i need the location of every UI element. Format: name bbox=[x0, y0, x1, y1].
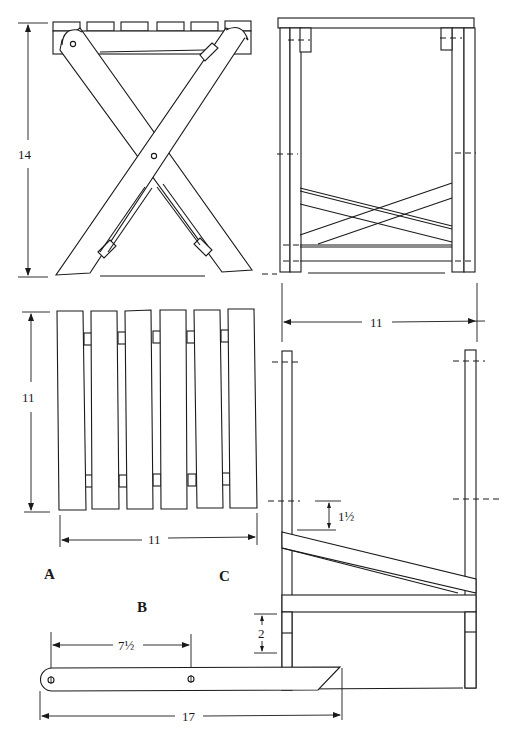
front-view bbox=[262, 18, 476, 274]
view-label-b: B bbox=[137, 599, 147, 615]
leg-length-label: 17 bbox=[182, 709, 196, 724]
side-height-label: 14 bbox=[18, 147, 32, 162]
leg-pivot-spacing-label: 7½ bbox=[118, 638, 135, 653]
frame-offset-label: 1½ bbox=[338, 509, 355, 524]
seat-height-label: 11 bbox=[22, 390, 35, 405]
seat-top-view-a: 11 11 A bbox=[22, 309, 257, 582]
side-view: 14 bbox=[18, 21, 252, 277]
stool-drawing: 14 bbox=[0, 0, 520, 737]
view-label-c: C bbox=[219, 568, 230, 584]
frame-foot-label: 2 bbox=[258, 626, 265, 641]
view-label-a: A bbox=[44, 566, 55, 582]
leg-view-b: B 7½ 17 bbox=[40, 599, 342, 724]
frame-width-label: 11 bbox=[370, 315, 383, 330]
seat-width-label: 11 bbox=[148, 532, 161, 547]
inner-frame-view-c: C 11 1½ bbox=[219, 283, 500, 690]
